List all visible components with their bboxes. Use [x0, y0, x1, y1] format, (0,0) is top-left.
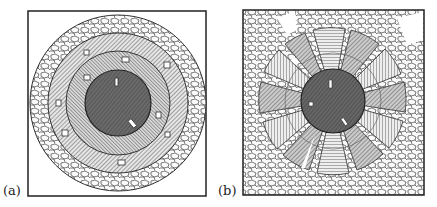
panel-b-figure [217, 0, 437, 207]
panel-b: (b) [217, 0, 437, 207]
panel-a-figure [0, 0, 215, 207]
panel-a: (a) [0, 0, 215, 207]
panel-a-label: (a) [3, 183, 21, 198]
panel-b-label: (b) [218, 183, 236, 198]
